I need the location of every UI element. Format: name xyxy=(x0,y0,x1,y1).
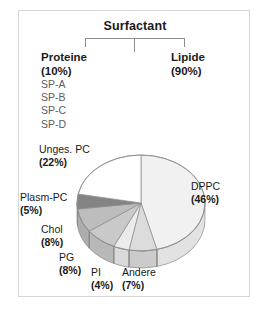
pie-label-pg-name: PG xyxy=(59,251,81,264)
pie-label-plasm-pc-name: Plasm-PC xyxy=(20,191,67,204)
pie-label-dppc-name: DPPC xyxy=(191,180,220,193)
tree-root-label: Surfactant xyxy=(19,19,251,33)
tree-tick-right xyxy=(184,38,185,47)
pie-label-unges-pc: Unges. PC (22%) xyxy=(39,143,90,168)
pie-label-pi-name: PI xyxy=(91,266,113,279)
pie-label-chol-name: Chol xyxy=(41,223,63,236)
pie-label-pi: PI (4%) xyxy=(91,266,113,291)
pie-label-pg-percent: (8%) xyxy=(59,264,81,277)
pie-label-pg: PG (8%) xyxy=(59,251,81,276)
pie-label-plasm-pc-percent: (5%) xyxy=(20,204,67,217)
pie-label-andere-percent: (7%) xyxy=(122,279,156,292)
pie-label-andere-name: Andere xyxy=(122,266,156,279)
protein-item-sp-a: SP-A xyxy=(41,78,87,91)
branch-proteine-percent: (10%) xyxy=(41,64,87,78)
branch-proteine-name: Proteine xyxy=(41,50,87,64)
pie-label-unges-pc-percent: (22%) xyxy=(39,156,90,169)
pie-label-unges-pc-name: Unges. PC xyxy=(39,143,90,156)
pie-label-chol-percent: (8%) xyxy=(41,236,63,249)
tree-horizontal-line xyxy=(85,38,185,39)
pie-label-pi-percent: (4%) xyxy=(91,279,113,292)
tree-branch-lipide: Lipide (90%) xyxy=(171,50,205,78)
pie-label-dppc-percent: (46%) xyxy=(191,193,220,206)
lipid-pie-chart: Unges. PC (22%) Plasm-PC (5%) Chol (8%) … xyxy=(19,103,251,298)
tree-tick-left xyxy=(85,38,86,47)
pie-label-dppc: DPPC (46%) xyxy=(191,180,220,205)
figure-panel: Surfactant Proteine (10%) SP-A SP-B SP-C… xyxy=(18,10,250,297)
pie-label-chol: Chol (8%) xyxy=(41,223,63,248)
pie-label-andere: Andere (7%) xyxy=(122,266,156,291)
surfactant-tree: Surfactant Proteine (10%) SP-A SP-B SP-C… xyxy=(19,11,251,103)
pie-label-plasm-pc: Plasm-PC (5%) xyxy=(20,191,67,216)
branch-lipide-name: Lipide xyxy=(171,50,205,64)
branch-lipide-percent: (90%) xyxy=(171,64,205,78)
tree-stem-line xyxy=(134,38,135,52)
